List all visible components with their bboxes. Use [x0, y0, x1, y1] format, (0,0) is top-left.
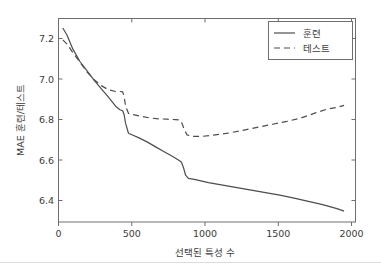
y-tick-label: 6.4	[39, 195, 54, 206]
line-chart: 7.2 7.0 6.8 6.6 6.4 0 500 1000 1500 2000…	[0, 0, 381, 271]
x-tick-label: 1500	[266, 228, 290, 239]
y-tick-label: 7.2	[39, 33, 54, 44]
legend-label-test: 테스트	[303, 43, 330, 54]
y-tick-label: 6.6	[39, 155, 54, 166]
x-tick-label: 2000	[339, 228, 363, 239]
y-tick-label: 7.0	[39, 74, 54, 85]
chart-figure: 7.2 7.0 6.8 6.6 6.4 0 500 1000 1500 2000…	[0, 0, 381, 271]
x-tick-label: 1000	[193, 228, 217, 239]
y-tick-label: 6.8	[39, 114, 54, 125]
y-axis-title: MAE 훈련/테스트	[15, 84, 26, 156]
x-tick-label: 0	[55, 228, 61, 239]
legend: 훈련 테스트	[269, 22, 353, 60]
legend-label-train: 훈련	[303, 28, 321, 39]
x-tick-label: 500	[123, 228, 141, 239]
x-axis-title: 선택된 특성 수	[175, 247, 235, 258]
